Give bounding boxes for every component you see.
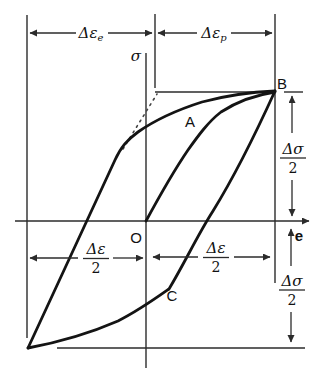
stress-axis-label: σ <box>131 47 142 65</box>
stress-amp-lower-numerator: Δσ <box>280 272 303 290</box>
strain-amp-left-denominator: 2 <box>92 260 101 276</box>
stress-amp-upper-denominator: 2 <box>289 160 298 176</box>
point-c-label: C <box>167 287 178 304</box>
point-a-label: A <box>185 113 195 130</box>
elastic-strain-label: Δεe <box>78 24 104 43</box>
loop-upper-branch-curve <box>28 91 275 348</box>
origin-label: O <box>130 229 142 246</box>
point-b-label: B <box>277 75 287 92</box>
cyclic-stress-strain-curve <box>146 92 275 221</box>
hysteresis-loop-diagram: Δεe Δεp Δε 2 Δε 2 Δσ 2 Δσ 2 σ e O A B C <box>0 0 327 379</box>
plastic-strain-label: Δεp <box>200 24 227 43</box>
strain-amp-right-numerator: Δε <box>206 239 226 257</box>
strain-amp-right-denominator: 2 <box>212 259 221 275</box>
stress-amp-upper-numerator: Δσ <box>281 140 304 158</box>
strain-amp-left-numerator: Δε <box>86 240 106 258</box>
hysteresis-loop-figure: Δεe Δεp Δε 2 Δε 2 Δσ 2 Δσ 2 σ e O A B C <box>0 0 327 379</box>
loop-lower-branch-curve <box>28 91 275 348</box>
stress-amp-lower-denominator: 2 <box>288 292 297 308</box>
strain-axis-label: e <box>295 227 303 244</box>
